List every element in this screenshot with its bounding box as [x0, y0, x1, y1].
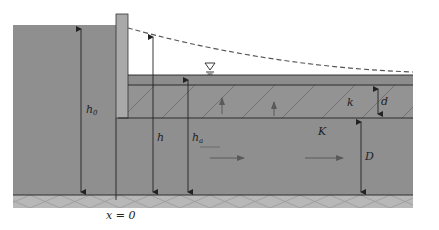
h-label: h	[157, 131, 164, 144]
D-label: D	[364, 150, 374, 163]
surface-water-layer	[128, 75, 413, 85]
x0-label: x = 0	[106, 209, 135, 222]
wall	[116, 14, 128, 118]
K-label: K	[317, 125, 327, 138]
d-label: d	[381, 95, 388, 108]
k-label: k	[347, 96, 354, 109]
aquifer-diagram: h0 h ha k d K D x = 0	[0, 0, 439, 230]
water-level-icon	[205, 63, 215, 74]
impermeable-base	[13, 195, 413, 208]
semipervious-layer	[128, 85, 413, 118]
left-aquifer-block	[13, 25, 118, 195]
piezometric-curve	[128, 28, 413, 72]
